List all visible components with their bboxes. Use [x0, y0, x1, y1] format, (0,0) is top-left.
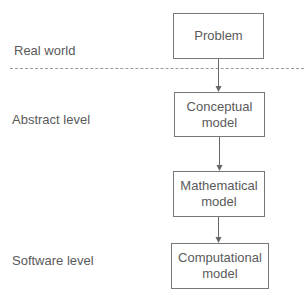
arrowhead-icon [216, 237, 222, 243]
arrowhead-icon [216, 86, 222, 92]
edge-arrows [0, 0, 306, 300]
arrowhead-icon [217, 165, 223, 171]
